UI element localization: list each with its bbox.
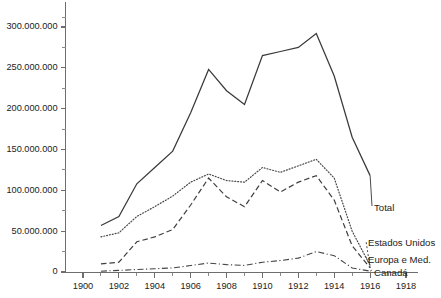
series-line-total xyxy=(101,34,370,226)
legend-label-europa-med: Europa e Med. xyxy=(368,255,431,265)
y-axis-tick-label: 100.000.000 xyxy=(6,185,57,195)
y-axis-tick-label: 150.000.000 xyxy=(6,144,57,154)
x-axis-tick-label: 1912 xyxy=(288,281,308,291)
y-axis: 050.000.000100.000.000150.000.000200.000… xyxy=(6,2,65,276)
x-axis: 1900190219041906190819101912191419161918 xyxy=(66,273,419,291)
x-axis-tick-label: 1918 xyxy=(396,281,416,291)
legend-label-total: Total xyxy=(374,203,394,213)
x-axis-tick-label: 1902 xyxy=(109,281,129,291)
x-axis-tick-label: 1908 xyxy=(216,281,236,291)
legend-label-canada: Canadá xyxy=(374,268,408,278)
y-axis-tick-label: 50.000.000 xyxy=(12,226,58,236)
x-axis-tick-label: 1914 xyxy=(324,281,344,291)
x-axis-tick-label: 1916 xyxy=(360,281,380,291)
series-line-canada xyxy=(101,252,370,272)
y-axis-tick-label: 250.000.000 xyxy=(6,62,57,72)
y-axis-tick-label: 0 xyxy=(52,266,57,276)
series-line-estados-unidos xyxy=(101,176,370,268)
legend-leader-canada xyxy=(370,270,372,271)
x-axis-tick-label: 1900 xyxy=(73,281,93,291)
y-axis-tick-label: 200.000.000 xyxy=(6,103,57,113)
y-axis-tick-label: 300.000.000 xyxy=(6,21,57,31)
legend-label-estados-unidos: Estados Unidos xyxy=(368,238,435,248)
x-axis-tick-label: 1906 xyxy=(180,281,200,291)
x-axis-tick-label: 1910 xyxy=(252,281,272,291)
series-lines xyxy=(101,34,370,272)
chart-container: 050.000.000100.000.000150.000.000200.000… xyxy=(0,0,441,298)
legend-leader-total xyxy=(370,176,372,206)
series-line-europa-med xyxy=(101,159,370,265)
x-axis-tick-label: 1904 xyxy=(145,281,165,291)
